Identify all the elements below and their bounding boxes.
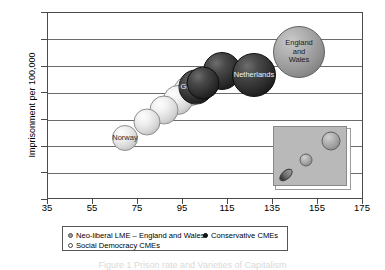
legend-marker-filled-gray-icon [68, 233, 73, 238]
x-tick-label-155: 155 [297, 203, 337, 213]
legend-marker-filled-dark-icon [203, 233, 208, 238]
legend-marker-open-icon [68, 243, 73, 248]
bubble-norway[interactable]: Norway [112, 125, 138, 151]
legend-item-neoliberal[interactable]: Neo-liberal LME – England and Wales [68, 231, 204, 240]
chart-legend: Neo-liberal LME – England and Wales Cons… [62, 226, 288, 251]
bubble-england-and-wales[interactable]: England and Wales [273, 26, 325, 78]
bubble-chart-figure: Imprisonment per 100,000 175 155 135 115… [0, 0, 385, 270]
inset-bubble-small [277, 166, 295, 183]
gridline-95 [48, 120, 362, 121]
legend-item-conservative[interactable]: Conservative CMEs [203, 231, 278, 240]
legend-label-neoliberal: Neo-liberal LME – England and Wales [76, 231, 204, 240]
bubble-label-england-and-wales: England and Wales [285, 39, 313, 65]
x-tick-label-95: 95 [162, 203, 202, 213]
legend-item-social-democracy[interactable]: Social Democracy CMEs [68, 241, 160, 250]
size-scale-inset [273, 126, 347, 186]
inset-bubble-large [322, 132, 341, 151]
x-tick-label-175: 175 [342, 203, 382, 213]
plot-area: Norway Germany Netherlands England and W… [47, 12, 363, 199]
y-axis-title: Imprisonment per 100,000 [27, 10, 37, 200]
legend-label-social-democracy: Social Democracy CMEs [76, 241, 160, 250]
x-tick-label-75: 75 [117, 203, 157, 213]
x-tick-label-115: 115 [207, 203, 247, 213]
bubble-label-norway: Norway [112, 134, 137, 143]
legend-label-conservative: Conservative CMEs [211, 231, 278, 240]
inset-bubble-medium [300, 154, 313, 167]
figure-caption: Figure 1 Prison rate and Varieties of Ca… [0, 260, 385, 270]
bubble-sdcme-2[interactable] [134, 109, 161, 136]
bubble-label-netherlands: Netherlands [234, 71, 274, 80]
x-tick-label-135: 135 [252, 203, 292, 213]
bubble-netherlands[interactable]: Netherlands [232, 53, 276, 97]
bubble-ccme-1[interactable] [187, 67, 220, 100]
x-tick-label-35: 35 [27, 203, 67, 213]
x-tick-label-55: 55 [72, 203, 112, 213]
